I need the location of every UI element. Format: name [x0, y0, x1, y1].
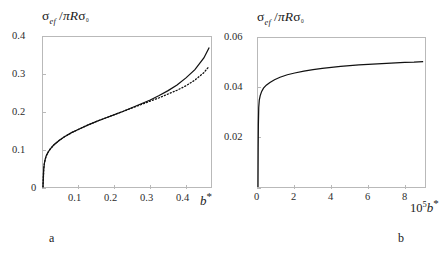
- data-series-solid: [258, 62, 423, 187]
- figure-container: σef /πRσ₀ 0.4 0.3 0.2 0.1 0 0.1 0.2 0.3 …: [0, 0, 447, 254]
- panel-b-curves: [224, 0, 447, 254]
- panel-a: σef /πRσ₀ 0.4 0.3 0.2 0.1 0 0.1 0.2 0.3 …: [0, 0, 224, 254]
- data-series-dotted: [43, 66, 209, 187]
- data-series-solid: [43, 48, 209, 188]
- panel-a-label: a: [49, 231, 54, 246]
- panel-b: σef /πRσ₀ 0.06 0.04 0.02 0 2 4 6 8 105b*…: [224, 0, 447, 254]
- panel-b-label: b: [398, 231, 404, 246]
- panel-a-curves: [0, 0, 224, 254]
